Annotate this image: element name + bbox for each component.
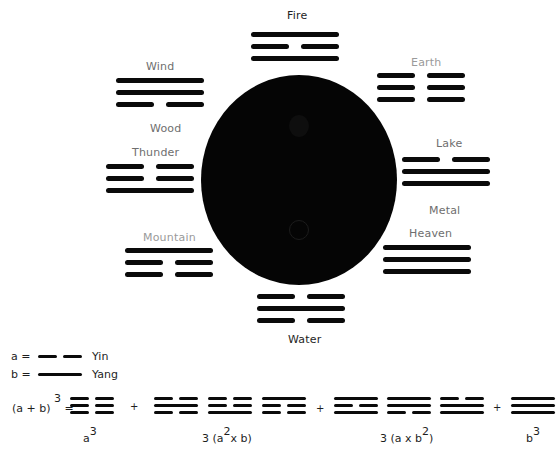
- yin-line: [208, 397, 252, 400]
- label-mountain: Mountain: [143, 231, 196, 244]
- legend-b-label: b =: [11, 368, 31, 381]
- eq-trigram-3ab2-1: [334, 397, 378, 414]
- yang-line: [208, 411, 252, 414]
- trigram-thunder: [106, 164, 194, 193]
- yin-line: [262, 411, 306, 414]
- label-wood: Wood: [150, 122, 181, 135]
- caption-b3: b3: [526, 432, 540, 445]
- yin-line: [334, 404, 378, 407]
- trigram-mountain: [125, 248, 213, 277]
- plus-sign-3: +: [493, 402, 501, 413]
- legend-yang-name: Yang: [92, 368, 118, 381]
- yang-line: [387, 397, 431, 400]
- yang-line: [387, 404, 431, 407]
- eq-trigram-3ab2-3: [440, 397, 484, 414]
- yin-line: [377, 85, 465, 90]
- yang-line: [334, 411, 378, 414]
- caption-3ab2: 3 (a x b2): [380, 432, 433, 445]
- label-metal: Metal: [429, 204, 460, 217]
- caption-3a2b-sup: 2: [224, 425, 231, 438]
- yang-line: [125, 248, 213, 253]
- label-lake: Lake: [436, 137, 462, 150]
- eq-trigram-a3: [70, 397, 114, 414]
- caption-3a2b: 3 (a2x b): [202, 432, 252, 445]
- yin-line: [257, 318, 345, 323]
- equation-lhs: (a + b) 3 =: [12, 402, 74, 415]
- yang-line: [440, 404, 484, 407]
- yin-line: [257, 294, 345, 299]
- caption-a3-sup: 3: [90, 425, 97, 438]
- eq-trigram-b3: [511, 397, 555, 414]
- yin-line: [208, 404, 252, 407]
- yin-line: [377, 73, 465, 78]
- yin-line: [125, 272, 213, 277]
- yang-line: [251, 32, 339, 37]
- yang-line: [154, 404, 198, 407]
- eq-trigram-3a2b-3: [262, 397, 306, 414]
- yin-line: [70, 411, 114, 414]
- yin-line: [70, 404, 114, 407]
- yin-line: [116, 102, 204, 107]
- legend-yin-name: Yin: [92, 350, 108, 363]
- caption-a3-base: a: [83, 432, 90, 445]
- yang-line: [334, 397, 378, 400]
- yin-line: [387, 411, 431, 414]
- caption-3ab2-base: 3 (a x b: [380, 432, 422, 445]
- eq-trigram-3a2b-2: [208, 397, 252, 414]
- yang-line: [251, 56, 339, 61]
- label-thunder: Thunder: [132, 146, 179, 159]
- yang-line: [402, 169, 490, 174]
- label-earth: Earth: [411, 56, 442, 69]
- trigram-water: [257, 294, 345, 323]
- yin-yang-circle: [201, 75, 397, 285]
- legend-yang-line: [38, 373, 82, 376]
- yin-line: [262, 404, 306, 407]
- yang-line: [257, 306, 345, 311]
- yang-line: [402, 181, 490, 186]
- yin-line: [377, 97, 465, 102]
- caption-a3: a3: [83, 432, 97, 445]
- trigram-lake: [402, 157, 490, 186]
- label-wind: Wind: [146, 60, 174, 73]
- lhs-exponent: 3: [54, 392, 61, 405]
- yang-line: [383, 269, 471, 274]
- yin-line: [125, 260, 213, 265]
- yang-line: [116, 90, 204, 95]
- yang-line: [262, 397, 306, 400]
- trigram-earth: [377, 73, 465, 102]
- yin-line: [106, 176, 194, 181]
- yin-line: [440, 397, 484, 400]
- plus-sign-2: +: [316, 403, 324, 414]
- yang-line: [106, 188, 194, 193]
- yang-line: [511, 397, 555, 400]
- yin-line: [154, 411, 198, 414]
- yin-line: [402, 157, 490, 162]
- label-fire: Fire: [287, 9, 307, 22]
- eq-trigram-3a2b-1: [154, 397, 198, 414]
- legend-a-label: a =: [11, 350, 30, 363]
- caption-3a2b-tail: x b): [231, 432, 252, 445]
- yin-line: [251, 44, 339, 49]
- caption-b3-base: b: [526, 432, 533, 445]
- yin-line: [70, 397, 114, 400]
- yang-line: [511, 411, 555, 414]
- caption-3ab2-sup: 2: [422, 425, 429, 438]
- yang-line: [116, 78, 204, 83]
- caption-3a2b-base: 3 (a: [202, 432, 224, 445]
- yang-eye-dot: [289, 115, 309, 137]
- trigram-wind: [116, 78, 204, 107]
- yang-line: [440, 411, 484, 414]
- lhs-expression: (a + b): [12, 402, 51, 415]
- yin-line: [106, 164, 194, 169]
- trigram-fire: [251, 32, 339, 61]
- yang-line: [511, 404, 555, 407]
- caption-3ab2-tail: ): [429, 432, 433, 445]
- yang-line: [383, 257, 471, 262]
- caption-b3-sup: 3: [533, 425, 540, 438]
- plus-sign-1: +: [130, 401, 138, 412]
- yang-line: [383, 245, 471, 250]
- label-heaven: Heaven: [409, 227, 452, 240]
- label-water: Water: [288, 333, 322, 346]
- legend-yin-line: [38, 355, 82, 358]
- eq-trigram-3ab2-2: [387, 397, 431, 414]
